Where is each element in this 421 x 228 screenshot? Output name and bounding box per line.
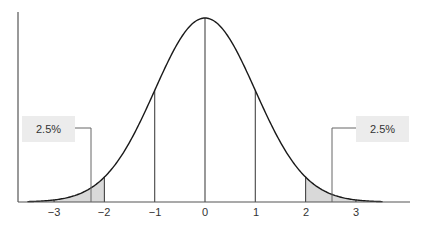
x-tick-label: −3	[48, 206, 61, 218]
x-tick-label: 2	[303, 206, 309, 218]
x-tick-label: 1	[253, 206, 259, 218]
right-tail-label: 2.5%	[356, 116, 409, 142]
left-tail-label: 2.5%	[22, 116, 75, 142]
x-tick-label: −1	[149, 206, 162, 218]
x-tick-label: 0	[202, 206, 208, 218]
normal-distribution-chart	[0, 0, 421, 228]
x-tick-label: 3	[353, 206, 359, 218]
x-tick-label: −2	[98, 206, 111, 218]
sd-vertical-lines	[54, 18, 356, 202]
right-annotation-leader	[332, 128, 356, 202]
